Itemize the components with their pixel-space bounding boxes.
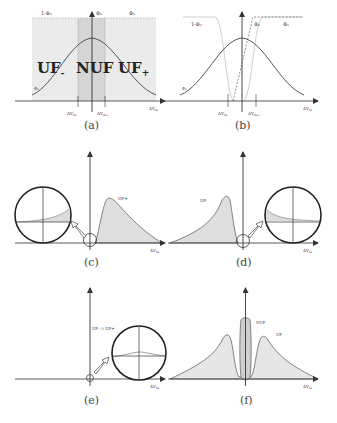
label-one-minus-phi1: 1-Φ₁ (191, 21, 202, 27)
label-x-axis: ΔVth (149, 106, 158, 112)
uf-minus-distribution (170, 196, 238, 243)
label-one-minus-phi1: 1-Φ₁ (41, 10, 52, 16)
label-x-axis: ΔVth (303, 384, 312, 390)
caption-f: (f) (240, 394, 253, 407)
label-phi1: Φ₁ (129, 10, 135, 16)
label-x-axis: ΔVth (303, 248, 312, 254)
label-th-plus: ΔVth+ (248, 111, 260, 117)
uf-plus-distribution (95, 198, 162, 243)
label-curve: UF+ (118, 196, 128, 201)
label-phi1: Φ₁ (283, 21, 289, 27)
label-phi-curve: Φ₁ (182, 86, 187, 91)
panel-a: 1-Φ₁ Φ₂ Φ₁ Φ₁ UF- NUF UF+ ΔVth- ΔVth+ ΔV… (15, 10, 165, 132)
label-curve: UF- (200, 198, 208, 203)
label-uf-minus: UF- (37, 59, 65, 78)
label-x-axis: ΔVth (150, 248, 159, 254)
label-x-axis: ΔVth (303, 106, 312, 112)
caption-b: (b) (235, 119, 251, 132)
zoom-arrow-icon (94, 357, 109, 374)
magnified-inset (15, 187, 71, 243)
label-phi2: Φ₂ (96, 10, 102, 16)
label-x-axis: ΔVth (150, 384, 159, 390)
caption-a: (a) (84, 119, 99, 132)
panel-d: UF- ΔVth (d) (168, 152, 321, 269)
panel-c: UF+ ΔVth (c) (15, 152, 165, 269)
caption-d: (d) (236, 256, 252, 269)
panel-f: NUF UF ΔVth (f) (168, 288, 318, 407)
panel-e: UF- ∩ UF+ ΔVth (e) (15, 288, 166, 407)
label-th-plus: ΔVth+ (97, 111, 109, 117)
caption-e: (e) (84, 394, 99, 407)
figure-canvas: 1-Φ₁ Φ₂ Φ₁ Φ₁ UF- NUF UF+ ΔVth- ΔVth+ ΔV… (0, 0, 337, 423)
panel-b: 1-Φ₁ Φ₂ Φ₁ Φ₁ ΔVth- ΔVth+ ΔVth (b) (165, 12, 318, 132)
label-nuf: NUF (256, 320, 266, 325)
label-phi-curve: Φ₁ (34, 86, 39, 91)
label-nuf: NUF (76, 59, 114, 77)
label-th-minus: ΔVth- (67, 111, 77, 117)
magnified-inset (112, 326, 166, 380)
zoom-arrow-icon (71, 221, 86, 238)
label-phi2: Φ₂ (254, 21, 260, 27)
label-th-minus: ΔVth- (218, 111, 228, 117)
label-uf: UF (276, 332, 282, 337)
label-curve: UF- ∩ UF+ (92, 326, 115, 331)
caption-c: (c) (84, 256, 99, 269)
magnified-inset (265, 187, 321, 243)
zoom-arrow-icon (248, 221, 263, 238)
